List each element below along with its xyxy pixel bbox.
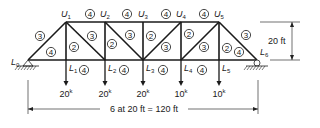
member-group-badge: 4 [234, 47, 243, 56]
member-group-badge: 4 [161, 9, 170, 18]
member-group-badge: 3 [241, 30, 250, 39]
member-group-badge: 4 [79, 65, 88, 74]
member-U5-L4 [181, 22, 219, 60]
svg-text:2: 2 [72, 43, 77, 52]
arrowhead-down-icon [290, 55, 294, 60]
svg-text:3: 3 [38, 32, 43, 41]
node-label-L0: L0 [11, 57, 20, 68]
svg-text:3: 3 [244, 31, 249, 40]
node-label-L1: L1 [69, 63, 78, 74]
svg-text:4: 4 [202, 10, 207, 19]
load-label: 20k [98, 88, 112, 99]
arrowhead-left-icon [28, 107, 33, 111]
svg-text:3: 3 [90, 32, 95, 41]
arrowhead-right-icon [253, 107, 258, 111]
member-group-badge: 3 [125, 30, 134, 39]
node-label-L3: L3 [146, 63, 155, 74]
arrowhead-up-icon [290, 22, 294, 27]
arrow-down-icon [141, 81, 146, 86]
svg-text:4: 4 [82, 66, 87, 75]
svg-text:3: 3 [164, 43, 169, 52]
member-U4-L3 [143, 22, 181, 60]
arrow-down-icon [217, 81, 222, 86]
load-label: 20k [136, 88, 150, 99]
node-label-L2: L2 [108, 63, 117, 74]
node-label-L5: L5 [222, 63, 231, 74]
arrow-down-icon [103, 81, 108, 86]
height-label: 20 ft [268, 36, 286, 46]
svg-text:3: 3 [128, 31, 133, 40]
truss-svg: 20k20k20k10k10k 444434232323233244444 L0… [0, 0, 320, 128]
member-group-badge: 2 [107, 39, 116, 48]
load-label: 10k [212, 88, 226, 99]
svg-text:3: 3 [202, 43, 207, 52]
load-label: 10k [174, 88, 188, 99]
member-group-badge: 2 [222, 43, 231, 52]
svg-text:2: 2 [149, 32, 154, 41]
arrow-down-icon [179, 81, 184, 86]
node-label-U3: U3 [138, 9, 149, 20]
arrow-down-icon [64, 81, 69, 86]
node-labels: L0L1L2L3L4L5L6U1U2U3U4U5 [11, 9, 269, 74]
member-group-badge: 4 [199, 9, 208, 18]
member-group-badge: 2 [184, 29, 193, 38]
span-label: 6 at 20 ft = 120 ft [110, 104, 178, 114]
svg-text:4: 4 [125, 10, 130, 19]
node-label-U4: U4 [176, 9, 187, 20]
member-group-badge: 3 [161, 42, 170, 51]
truss-members [28, 22, 257, 60]
member-group-badge: 3 [35, 31, 44, 40]
svg-text:2: 2 [110, 40, 115, 49]
member-group-badge: 2 [146, 31, 155, 40]
svg-text:4: 4 [200, 66, 205, 75]
node-label-U1: U1 [61, 9, 72, 20]
load-label: 20k [59, 88, 73, 99]
svg-text:4: 4 [237, 48, 242, 57]
member-group-badge: 3 [199, 42, 208, 51]
node-label-U2: U2 [100, 9, 111, 20]
member-group-badge: 4 [197, 65, 206, 74]
truss-diagram: 20k20k20k10k10k 444434232323233244444 L0… [0, 0, 320, 128]
svg-text:4: 4 [49, 48, 54, 57]
member-group-badge: 4 [46, 47, 55, 56]
member-U1-L2 [66, 22, 105, 60]
member-group-badge: 3 [87, 31, 96, 40]
svg-text:4: 4 [88, 10, 93, 19]
member-group-badge: 4 [85, 9, 94, 18]
node-label-L6: L6 [260, 47, 269, 58]
member-group-badge: 4 [158, 65, 167, 74]
svg-text:4: 4 [161, 66, 166, 75]
svg-text:4: 4 [122, 66, 127, 75]
roller-support-icon [244, 60, 268, 70]
svg-text:4: 4 [164, 10, 169, 19]
node-label-U5: U5 [214, 9, 225, 20]
svg-text:2: 2 [225, 44, 230, 53]
member-group-badge: 4 [119, 65, 128, 74]
node-label-L4: L4 [184, 63, 193, 74]
member-group-badge: 4 [122, 9, 131, 18]
svg-text:2: 2 [187, 30, 192, 39]
member-group-badge: 2 [69, 42, 78, 51]
